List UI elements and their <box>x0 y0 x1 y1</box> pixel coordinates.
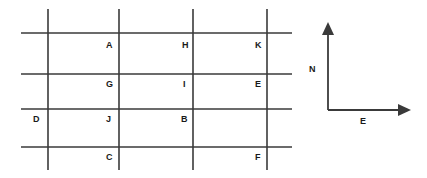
compass-rose <box>322 22 411 116</box>
intersection-label-e: E <box>255 79 261 89</box>
intersection-label-h: H <box>182 40 189 50</box>
grid-map-svg <box>0 0 427 178</box>
horizontal-street-group <box>21 33 292 147</box>
east-arrowhead-icon <box>398 104 411 116</box>
east-direction-label: E <box>360 116 366 126</box>
north-arrowhead-icon <box>322 22 334 35</box>
intersection-label-g: G <box>106 79 113 89</box>
intersection-label-j: J <box>106 114 111 124</box>
intersection-label-i: I <box>183 79 186 89</box>
intersection-label-d: D <box>33 114 40 124</box>
intersection-label-k: K <box>255 40 262 50</box>
north-direction-label: N <box>309 64 316 74</box>
intersection-label-f: F <box>255 152 261 162</box>
intersection-label-b: B <box>181 114 188 124</box>
intersection-label-c: C <box>106 152 113 162</box>
diagram-canvas: AHKGIEDJBCF NE <box>0 0 427 178</box>
intersection-label-a: A <box>106 40 113 50</box>
